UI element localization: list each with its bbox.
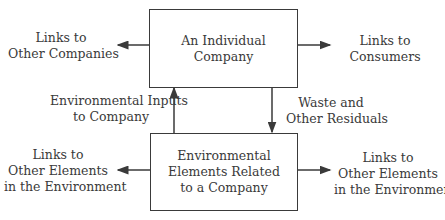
label-links-other-companies: Links to Other Companies — [8, 30, 114, 62]
label-line: to Company — [50, 109, 172, 125]
box-text: Elements Related — [168, 164, 280, 180]
label-line: in the Environment — [334, 182, 442, 198]
label-line: Other Elements — [334, 166, 442, 182]
label-line: Other Elements — [4, 163, 112, 179]
label-line: Links to — [345, 33, 425, 49]
box-text: An Individual — [181, 33, 266, 49]
label-line: Other Companies — [8, 46, 114, 62]
environmental-elements-box: Environmental Elements Related to a Comp… — [150, 133, 298, 211]
box-text: to a Company — [168, 180, 280, 196]
label-line: in the Environment — [4, 179, 112, 195]
label-line: Waste and — [286, 95, 376, 111]
label-line: Other Residuals — [286, 111, 376, 127]
label-links-env-left: Links to Other Elements in the Environme… — [4, 147, 112, 195]
label-waste-residuals: Waste and Other Residuals — [286, 95, 376, 127]
label-line: Links to — [334, 150, 442, 166]
individual-company-box: An Individual Company — [149, 9, 298, 88]
label-line: Environmental Inputs — [50, 93, 172, 109]
label-line: Links to — [8, 30, 114, 46]
box-text: Environmental — [168, 148, 280, 164]
label-line: Consumers — [345, 49, 425, 65]
box-text: Company — [181, 49, 266, 65]
label-links-env-right: Links to Other Elements in the Environme… — [334, 150, 442, 198]
label-links-consumers: Links to Consumers — [345, 33, 425, 65]
label-line: Links to — [4, 147, 112, 163]
label-environmental-inputs: Environmental Inputs to Company — [50, 93, 172, 125]
